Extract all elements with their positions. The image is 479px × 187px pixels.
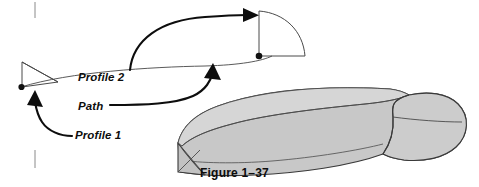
callout-label-profile-2: Profile 2 — [78, 71, 124, 83]
solid-right-end-cap — [383, 93, 466, 160]
figure-loft-sweep-illustration: Profile 2 Path Profile 1 Figure 1–37 — [0, 0, 479, 187]
figure-caption: Figure 1–37 — [200, 166, 269, 180]
callout-leader-profile-2 — [130, 8, 259, 70]
right-profile-quarter-circle — [256, 11, 305, 59]
figure-caption-wrapper: Figure 1–37 — [0, 166, 479, 180]
swept-solid-body — [178, 88, 466, 176]
left-profile-triangle — [18, 62, 58, 90]
technical-diagram-canvas — [0, 0, 479, 187]
right-profile-vertex-dot — [256, 53, 263, 60]
left-profile-vertex-dot — [18, 84, 24, 90]
callout-leader-profile-1 — [27, 90, 72, 136]
arrowhead-profile-1 — [27, 90, 43, 107]
callout-leader-path — [110, 63, 221, 105]
callout-label-path: Path — [78, 100, 103, 112]
arrowhead-profile-2 — [243, 8, 259, 22]
callout-label-profile-1: Profile 1 — [75, 129, 121, 141]
